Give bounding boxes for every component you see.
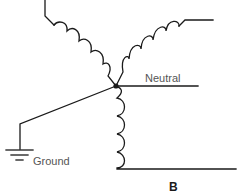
wye-winding-diagram: Neutral Ground B — [0, 0, 243, 194]
neutral-line: Neutral — [116, 72, 198, 86]
ground-symbol-icon — [6, 150, 33, 160]
right-winding-lead — [179, 20, 213, 26]
left-winding-lead — [45, 0, 54, 25]
vertical-winding-coil — [116, 86, 236, 169]
left-winding — [45, 0, 116, 86]
left-winding-coil — [54, 22, 116, 86]
phase-b-label: B — [169, 180, 178, 194]
ground-line — [20, 86, 116, 149]
ground-label: Ground — [33, 155, 70, 167]
ground-connection: Ground — [6, 86, 116, 167]
vertical-winding: B — [116, 86, 236, 194]
neutral-label: Neutral — [145, 72, 180, 84]
